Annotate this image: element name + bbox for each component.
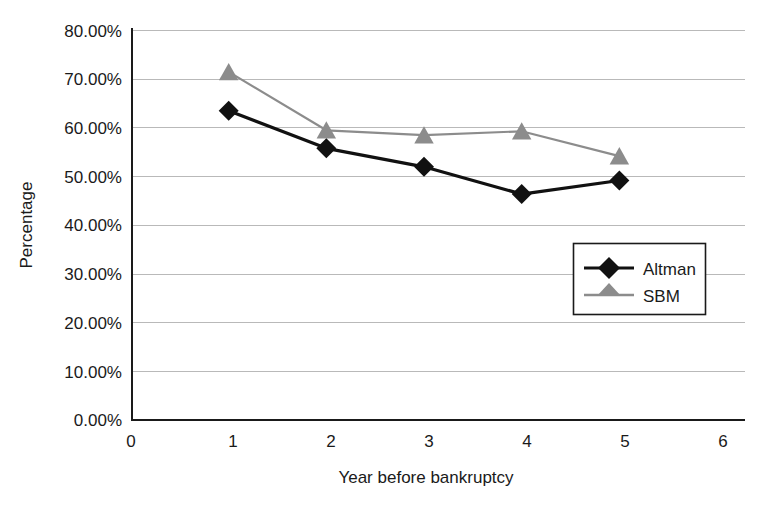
x-tick-label: 3 (424, 432, 433, 451)
y-tick-label: 10.00% (64, 363, 122, 382)
legend[interactable]: Altman SBM (574, 244, 706, 315)
y-tick-labels: 80.00% 70.00% 60.00% 50.00% 40.00% 30.00… (64, 22, 122, 430)
x-tick-label: 2 (326, 432, 335, 451)
y-tick-label: 0.00% (74, 411, 122, 430)
x-tick-label: 1 (228, 432, 237, 451)
legend-box (574, 244, 706, 315)
y-tick-label: 20.00% (64, 314, 122, 333)
y-tick-label: 60.00% (64, 119, 122, 138)
y-axis-title: Percentage (17, 182, 36, 269)
y-tick-label: 50.00% (64, 168, 122, 187)
y-tick-label: 80.00% (64, 22, 122, 41)
y-tick-label: 70.00% (64, 70, 122, 89)
y-tick-label: 40.00% (64, 216, 122, 235)
legend-label-sbm: SBM (643, 287, 680, 306)
legend-label-altman: Altman (643, 260, 696, 279)
y-tick-label: 30.00% (64, 265, 122, 284)
x-axis-title: Year before bankruptcy (338, 468, 514, 487)
line-chart: 80.00% 70.00% 60.00% 50.00% 40.00% 30.00… (0, 0, 764, 505)
x-tick-label: 0 (126, 432, 135, 451)
x-tick-label: 6 (718, 432, 727, 451)
x-tick-label: 4 (522, 432, 531, 451)
x-tick-label: 5 (620, 432, 629, 451)
chart-figure: 80.00% 70.00% 60.00% 50.00% 40.00% 30.00… (0, 0, 764, 505)
